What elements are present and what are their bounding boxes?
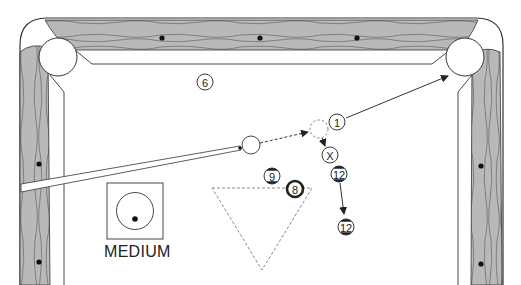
spin-contact-point (132, 216, 138, 222)
diamond-marker (159, 35, 164, 40)
ball-number-label: 12 (333, 169, 345, 181)
diamond-marker (36, 161, 41, 166)
table-frame (20, 18, 503, 285)
ball-number-label: 8 (292, 184, 298, 196)
diamond-marker (354, 35, 359, 40)
ball-number-label: 1 (334, 117, 340, 129)
ball-9: 9 (264, 168, 280, 184)
right-rail (471, 49, 502, 285)
ball-12-start: 12 (331, 166, 347, 182)
ball-x: X (322, 147, 338, 163)
diamond-marker (478, 261, 483, 266)
diamond-marker (257, 35, 262, 40)
ball-12-end: 12 (338, 219, 354, 235)
top-rail (45, 20, 478, 50)
top-left-pocket (39, 38, 77, 76)
ball-number-label: 12 (340, 222, 352, 234)
diamond-marker (36, 259, 41, 264)
ball-number-label: 9 (269, 171, 275, 183)
ball-number-label: 6 (202, 77, 208, 89)
ball-6: 6 (197, 74, 213, 90)
spin-legend-label: MEDIUM (104, 243, 171, 261)
spin-legend (107, 183, 163, 239)
cue-ball (242, 136, 260, 154)
table-canvas: 61X129812 (0, 0, 521, 285)
ball-number-label: X (326, 150, 334, 162)
diamond-marker (478, 163, 483, 168)
ball-8: 8 (287, 181, 303, 197)
ball-1: 1 (329, 114, 345, 130)
pool-diagram: 61X129812 MEDIUM (0, 0, 521, 285)
top-right-pocket (446, 38, 484, 76)
left-rail (20, 46, 50, 285)
